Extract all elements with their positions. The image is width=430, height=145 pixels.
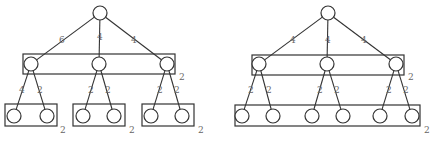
leaf-node (76, 109, 90, 123)
group-weight-label: 2 (408, 72, 414, 82)
leaf-node (40, 109, 54, 123)
edge-weight-label: 4 (131, 35, 137, 45)
edge-weight-label: 4 (19, 85, 25, 95)
left-tree: 2222644422222 (5, 6, 204, 135)
edge-weight-label: 2 (174, 85, 180, 95)
root-node (321, 6, 335, 20)
edge-weight-label: 2 (266, 85, 272, 95)
group-weight-label: 2 (129, 125, 135, 135)
middle-node (320, 57, 334, 71)
group-weight-label: 2 (198, 125, 204, 135)
edge-weight-label: 6 (59, 35, 65, 45)
root-node (93, 6, 107, 20)
leaf-group-box (235, 105, 420, 126)
right-tree: 22444222222 (235, 6, 430, 135)
leaf-node (144, 109, 158, 123)
leaf-node (305, 109, 319, 123)
edge-weight-label: 2 (317, 85, 323, 95)
middle-node (389, 57, 403, 71)
edge-weight-label: 2 (157, 85, 163, 95)
leaf-node (405, 109, 419, 123)
edge-weight-label: 2 (334, 85, 340, 95)
edge-weight-label: 4 (361, 35, 367, 45)
edge-weight-label: 2 (386, 85, 392, 95)
tree-diagrams: 222264442222222444222222 (0, 0, 430, 145)
leaf-node (235, 109, 249, 123)
middle-node (24, 57, 38, 71)
group-weight-label: 2 (179, 72, 185, 82)
leaf-node (107, 109, 121, 123)
leaf-node (175, 109, 189, 123)
middle-node (92, 57, 106, 71)
group-weight-label: 2 (424, 125, 430, 135)
middle-node (160, 57, 174, 71)
edge-weight-label: 2 (88, 85, 94, 95)
leaf-node (266, 109, 280, 123)
group-weight-label: 2 (60, 125, 66, 135)
edge-weight-label: 4 (325, 35, 331, 45)
edge-weight-label: 2 (248, 85, 254, 95)
leaf-node (336, 109, 350, 123)
edge-weight-label: 4 (290, 35, 296, 45)
edge-weight-label: 2 (105, 85, 111, 95)
middle-node (252, 57, 266, 71)
edge-weight-label: 4 (97, 32, 103, 42)
edge-weight-label: 2 (37, 85, 43, 95)
leaf-node (7, 109, 21, 123)
leaf-node (373, 109, 387, 123)
edge-weight-label: 2 (403, 85, 409, 95)
